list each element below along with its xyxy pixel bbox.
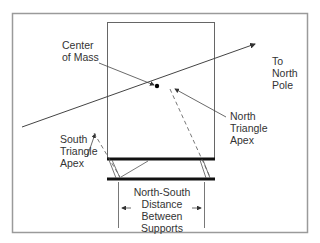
label-south-triangle-apex: South Triangle Apex	[60, 133, 98, 169]
label-line: Triangle	[60, 145, 98, 157]
north-dashed-line	[170, 89, 210, 177]
polar-axis-line	[22, 44, 255, 127]
center-of-mass-dot	[155, 84, 159, 88]
label-distance-between-supports: North-South Distance Between Supports	[133, 186, 191, 234]
label-line: Supports	[133, 222, 191, 234]
label-line: Center	[62, 39, 99, 51]
label-line: Apex	[230, 134, 268, 146]
label-line: North-South	[133, 186, 191, 198]
label-line: Apex	[60, 157, 98, 169]
label-line: South	[60, 133, 98, 145]
label-line: Between	[133, 210, 191, 222]
label-line: Triangle	[230, 122, 268, 134]
label-line: of Mass	[62, 51, 99, 63]
label-line: North	[272, 67, 298, 79]
south-support-leg	[109, 160, 148, 178]
label-center-of-mass: Center of Mass	[62, 39, 99, 63]
north-support-leg	[200, 160, 210, 178]
label-line: To	[272, 55, 298, 67]
label-line: North	[230, 110, 268, 122]
north-apex-pointer	[175, 89, 226, 117]
label-north-triangle-apex: North Triangle Apex	[230, 110, 268, 146]
label-to-north-pole: To North Pole	[272, 55, 298, 91]
label-line: Pole	[272, 79, 298, 91]
label-line: Distance	[133, 198, 191, 210]
